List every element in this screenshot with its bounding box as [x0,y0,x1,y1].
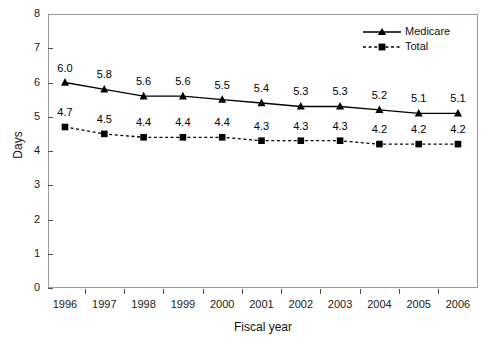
legend-item-total[interactable]: Total [362,39,474,54]
x-axis-tick-label: 2005 [399,298,439,310]
x-axis-tick-mark [360,289,361,294]
legend-label-total: Total [402,41,428,52]
y-axis-tick-mark [48,48,53,49]
data-point-label: 4.2 [402,124,436,135]
y-axis-tick-label: 0 [26,282,40,293]
x-axis-tick-label: 1998 [124,298,164,310]
data-point-label: 4.4 [127,117,161,128]
x-axis-tick-label: 2000 [202,298,242,310]
x-axis-tick-mark [320,289,321,294]
plot-area [48,14,478,288]
y-axis-tick-label: 3 [26,179,40,190]
data-point-label: 5.1 [402,93,436,104]
y-axis-tick-mark [48,254,53,255]
data-point-label: 4.2 [441,124,475,135]
y-axis-tick-mark [48,185,53,186]
y-axis-title: Days [11,115,25,175]
data-point-label: 5.6 [166,76,200,87]
y-axis-tick-label: 1 [26,248,40,259]
y-axis-tick-mark [48,220,53,221]
data-point-label: 5.3 [284,86,318,97]
x-axis-tick-mark [242,289,243,294]
x-axis-tick-label: 2004 [359,298,399,310]
data-point-label: 4.3 [323,121,357,132]
y-axis-tick-mark [48,83,53,84]
x-axis-tick-label: 1999 [163,298,203,310]
x-axis-tick-mark [85,289,86,294]
x-axis-tick-mark [281,289,282,294]
x-axis-tick-label: 2006 [438,298,478,310]
data-point-label: 5.1 [441,93,475,104]
data-point-label: 5.5 [205,80,239,91]
x-axis-tick-mark [203,289,204,294]
x-axis-tick-mark [163,289,164,294]
y-axis-tick-label: 2 [26,214,40,225]
data-point-label: 4.4 [205,117,239,128]
chart-legend: Medicare Total [362,24,474,54]
legend-label-medicare: Medicare [402,26,450,37]
data-point-label: 4.4 [166,117,200,128]
x-axis-tick-mark [399,289,400,294]
data-point-label: 4.2 [362,124,396,135]
y-axis-tick-label: 5 [26,111,40,122]
y-axis-tick-mark [48,288,53,289]
x-axis-tick-label: 1996 [45,298,85,310]
data-point-label: 4.5 [87,114,121,125]
x-axis-tick-label: 2003 [320,298,360,310]
y-axis-tick-label: 7 [26,42,40,53]
x-axis-tick-label: 2001 [242,298,282,310]
data-point-label: 5.4 [245,83,279,94]
x-axis-tick-label: 1997 [84,298,124,310]
x-axis-tick-mark [124,289,125,294]
x-axis-tick-mark [438,289,439,294]
data-point-label: 4.7 [48,107,82,118]
data-point-label: 4.3 [284,121,318,132]
data-point-label: 5.3 [323,86,357,97]
y-axis-tick-label: 4 [26,145,40,156]
data-point-label: 5.8 [87,69,121,80]
data-point-label: 5.6 [127,76,161,87]
data-point-label: 5.2 [362,90,396,101]
chart-figure: 012345678 Days 1996199719981999200020012… [0,0,494,346]
data-point-label: 4.3 [245,121,279,132]
legend-swatch-medicare-solid-triangle [362,25,402,39]
data-point-label: 6.0 [48,63,82,74]
y-axis-tick-label: 6 [26,77,40,88]
y-axis-tick-label: 8 [26,8,40,19]
x-axis-tick-label: 2002 [281,298,321,310]
x-axis-title: Fiscal year [203,320,323,334]
y-axis-tick-mark [48,151,53,152]
legend-swatch-total-dashed-square [362,40,402,54]
legend-item-medicare[interactable]: Medicare [362,24,474,39]
